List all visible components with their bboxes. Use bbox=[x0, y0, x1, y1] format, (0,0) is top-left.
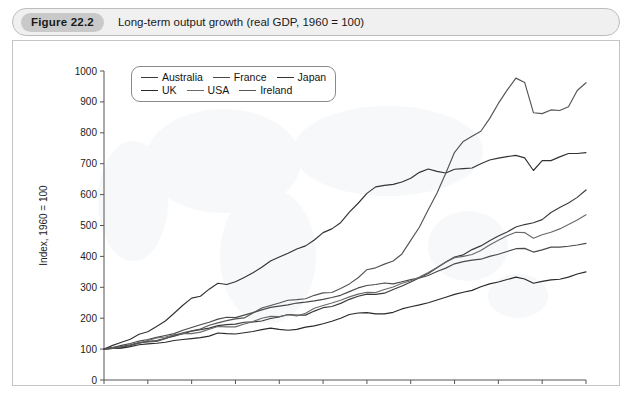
svg-text:Index, 1960 = 100: Index, 1960 = 100 bbox=[38, 185, 49, 266]
legend-row: UK USA Ireland bbox=[141, 84, 326, 96]
legend-swatch-usa bbox=[187, 90, 204, 91]
legend-swatch-uk bbox=[141, 90, 158, 91]
legend-item-japan: Japan bbox=[277, 71, 327, 83]
figure-caption: Long-term output growth (real GDP, 1960 … bbox=[118, 16, 364, 28]
series-line-australia bbox=[104, 190, 586, 349]
world-map-watermark bbox=[98, 106, 548, 324]
svg-text:800: 800 bbox=[80, 127, 97, 138]
svg-text:400: 400 bbox=[80, 251, 97, 262]
svg-text:300: 300 bbox=[80, 282, 97, 293]
legend-swatch-france bbox=[213, 77, 230, 78]
legend-item-usa: USA bbox=[187, 84, 230, 96]
svg-text:700: 700 bbox=[80, 158, 97, 169]
legend-label-ireland: Ireland bbox=[260, 84, 292, 96]
legend-item-australia: Australia bbox=[141, 71, 203, 83]
chart-plot-panel: 0100200300400500600700800900100019601965… bbox=[12, 40, 620, 386]
legend-swatch-japan bbox=[277, 77, 294, 78]
figure-number-badge: Figure 22.2 bbox=[21, 13, 104, 32]
legend-row: Australia France Japan bbox=[141, 71, 326, 83]
svg-text:0: 0 bbox=[91, 375, 97, 386]
figure-card: Figure 22.2 Long-term output growth (rea… bbox=[12, 8, 620, 386]
legend-swatch-ireland bbox=[239, 90, 256, 91]
svg-text:900: 900 bbox=[80, 96, 97, 107]
svg-text:1000: 1000 bbox=[75, 66, 98, 77]
legend-item-ireland: Ireland bbox=[239, 84, 292, 96]
legend-label-uk: UK bbox=[162, 84, 177, 96]
svg-text:600: 600 bbox=[80, 189, 97, 200]
legend-item-uk: UK bbox=[141, 84, 177, 96]
svg-text:500: 500 bbox=[80, 220, 97, 231]
chart-legend: Australia France Japan UK USA bbox=[131, 66, 336, 102]
svg-text:100: 100 bbox=[80, 344, 97, 355]
legend-label-japan: Japan bbox=[298, 71, 327, 83]
legend-swatch-australia bbox=[141, 77, 158, 78]
svg-text:200: 200 bbox=[80, 313, 97, 324]
legend-label-australia: Australia bbox=[162, 71, 203, 83]
legend-label-france: France bbox=[234, 71, 267, 83]
legend-label-usa: USA bbox=[208, 84, 230, 96]
legend-item-france: France bbox=[213, 71, 267, 83]
figure-header: Figure 22.2 Long-term output growth (rea… bbox=[12, 8, 620, 36]
